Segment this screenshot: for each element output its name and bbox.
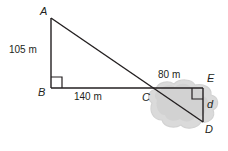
vertex-label-b: B <box>38 87 45 98</box>
measure-label-ce: 80 m <box>158 70 180 80</box>
geometry-figure: A B C D E 105 m 140 m 80 m d <box>0 0 228 151</box>
vertex-label-c: C <box>142 92 150 103</box>
vertex-label-a: A <box>40 6 47 17</box>
vertex-label-e: E <box>207 73 214 84</box>
right-angle-marker-b <box>51 77 62 88</box>
measure-label-ab: 105 m <box>9 45 37 55</box>
measure-label-bc: 140 m <box>74 92 102 102</box>
vertex-label-d: D <box>205 124 213 135</box>
figure-canvas <box>0 0 228 151</box>
measure-label-ed: d <box>207 99 213 110</box>
